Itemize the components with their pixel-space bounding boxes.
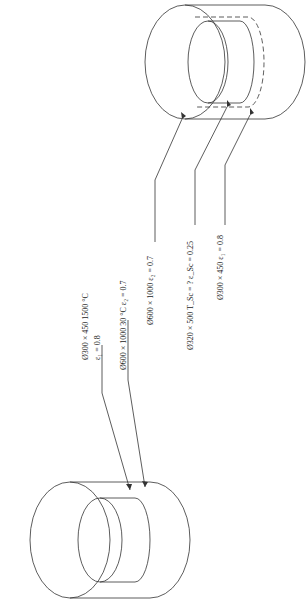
diagram-canvas: Ø300 × 450 1500 °C ε₁ = 0.8 Ø600 × 1000 … (0, 0, 306, 612)
leader-left-outer (128, 320, 145, 487)
right-inner-cylinder (188, 21, 254, 103)
arrow-right-outer (181, 112, 186, 119)
label-left-inner-line2: ε₁ = 0.8 (93, 335, 102, 360)
leader-right-shield (195, 107, 227, 225)
label-left-outer: Ø600 × 1000 30 °C ε₂ = 0.7 (119, 281, 128, 370)
left-inner-cylinder (78, 498, 150, 582)
arrow-left-outer (142, 481, 148, 487)
arrow-right-inner (250, 108, 254, 115)
leader-right-inner (225, 115, 250, 225)
right-outer-cylinder (145, 5, 305, 119)
arrow-right-shield (227, 100, 231, 107)
left-outer-cylinder (30, 482, 190, 598)
label-right-inner: Ø300 × 450 ε₁ = 0.8 (216, 235, 225, 300)
label-right-outer: Ø600 × 1000 ε₂ = 0.7 (146, 256, 155, 325)
label-right-shield: Ø320 × 500 T_Sc = ? ε_Sc = 0.25 (186, 241, 195, 350)
arrow-left-inner (126, 484, 132, 490)
label-left-inner-line1: Ø300 × 450 1500 °C (81, 293, 90, 360)
leader-right-outer (155, 119, 182, 242)
